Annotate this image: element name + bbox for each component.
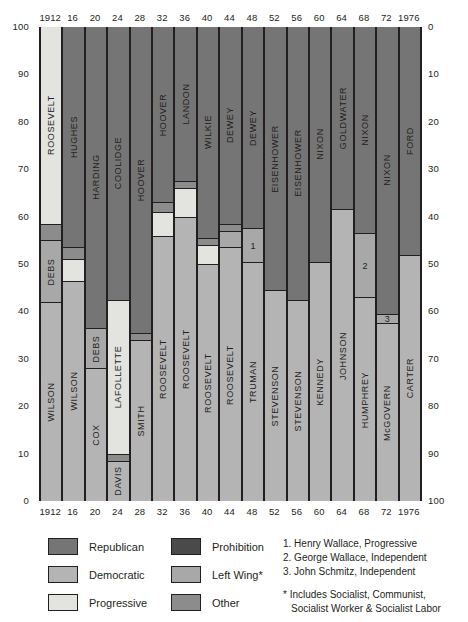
vote-segment: SMITH <box>131 340 151 501</box>
candidate-label: DEBS <box>91 335 101 362</box>
right-axis-tick: 80 <box>428 400 454 411</box>
left-axis-tick: 30 <box>3 353 29 364</box>
left-axis-tick: 60 <box>3 211 29 222</box>
vote-segment: CARTER <box>400 255 420 501</box>
vote-segment <box>220 231 240 248</box>
vote-segment <box>220 224 240 231</box>
candidate-label: WILSON <box>69 372 79 411</box>
legend-label: Republican <box>89 541 144 553</box>
vote-segment <box>108 454 128 461</box>
legend-swatch <box>48 538 78 555</box>
right-axis-tick: 0 <box>428 21 454 32</box>
candidate-label: STEVENSON <box>270 366 280 427</box>
candidate-label: DAVIS <box>113 467 123 496</box>
vote-segment: HOOVER <box>131 27 151 333</box>
right-axis-tick: 20 <box>428 116 454 127</box>
candidate-label: ROOSEVELT <box>203 353 213 413</box>
vote-segment: ROOSEVELT <box>175 217 195 501</box>
candidate-label: HOOVER <box>136 159 146 202</box>
candidate-label: HARDING <box>91 155 101 201</box>
vote-segment <box>41 224 61 241</box>
vote-segment: WILKIE <box>198 27 218 238</box>
legend-label: Other <box>212 597 240 609</box>
chart-legend: RepublicanDemocraticProgressiveProhibiti… <box>0 530 468 622</box>
election-column: NIXON2HUMPHREY <box>354 27 376 501</box>
vote-segment: ROOSEVELT <box>220 247 240 501</box>
vote-segment: KENNEDY <box>310 262 330 501</box>
vote-segment: 3 <box>377 314 397 323</box>
candidate-label: COX <box>91 424 101 445</box>
right-axis-tick: 100 <box>428 495 454 506</box>
right-axis-tick: 60 <box>428 305 454 316</box>
election-column: HARDINGDEBSCOX <box>85 27 107 501</box>
vote-segment: NIXON <box>377 27 397 314</box>
candidate-label: DEBS <box>46 258 56 285</box>
plot-area: ROOSEVELTDEBSWILSONHUGHESWILSONHARDINGDE… <box>39 27 422 501</box>
vote-segment: DEBS <box>41 240 61 302</box>
legend-swatch <box>48 566 78 583</box>
vote-segment: HOOVER <box>153 27 173 202</box>
election-column: EISENHOWERSTEVENSON <box>287 27 309 501</box>
right-axis-tick: 40 <box>428 211 454 222</box>
segment-number-label: 3 <box>385 314 390 323</box>
vote-segment: STEVENSON <box>288 300 308 501</box>
election-column: ROOSEVELTDEBSWILSON <box>40 27 62 501</box>
candidate-label: JOHNSON <box>338 332 348 380</box>
vote-segment <box>175 181 195 188</box>
left-axis-tick: 70 <box>3 163 29 174</box>
candidate-label: HUMPHREY <box>360 371 370 427</box>
election-column: HUGHESWILSON <box>62 27 84 501</box>
vote-segment: HUGHES <box>63 27 83 247</box>
election-column: NIXONKENNEDY <box>309 27 331 501</box>
vote-segment: EISENHOWER <box>265 27 285 290</box>
bottom-year-label: 1976 <box>389 506 429 517</box>
vote-segment: COOLIDGE <box>108 27 128 300</box>
candidate-label: WILSON <box>46 382 56 421</box>
candidate-label: LAFOLLETTE <box>113 346 123 409</box>
vote-segment <box>63 259 83 280</box>
legend-annotation: 1. Henry Wallace, Progressive <box>283 537 417 551</box>
election-column: WILKIEROOSEVELT <box>197 27 219 501</box>
vote-segment: WILSON <box>41 302 61 501</box>
election-column: DEWEY1TRUMAN <box>242 27 264 501</box>
candidate-label: KENNEDY <box>315 358 325 406</box>
election-column: HOOVERSMITH <box>130 27 152 501</box>
legend-item: Other <box>171 594 240 611</box>
segment-number-label: 1 <box>250 241 255 251</box>
segment-number-label: 2 <box>362 261 367 271</box>
vote-segment: FORD <box>400 27 420 255</box>
vote-segment: GOLDWATER <box>332 27 352 209</box>
candidate-label: EISENHOWER <box>270 125 280 193</box>
vote-segment: ROOSEVELT <box>153 236 173 501</box>
candidate-label: ROOSEVELT <box>225 345 235 405</box>
vote-segment: COX <box>86 368 106 501</box>
legend-annotation: 2. George Wallace, Independent <box>283 551 427 565</box>
candidate-label: GOLDWATER <box>338 87 348 149</box>
vote-segment: ROOSEVELT <box>41 27 61 224</box>
candidate-label: ROOSEVELT <box>181 329 191 389</box>
candidate-label: TRUMAN <box>248 361 258 403</box>
election-vote-share-chart: 1009080706050403020100 01020304050607080… <box>0 0 468 530</box>
candidate-label: McGOVERN <box>382 385 392 441</box>
candidate-label: CARTER <box>405 358 415 398</box>
legend-label: Prohibition <box>212 541 264 553</box>
vote-segment <box>198 245 218 264</box>
vote-segment: LANDON <box>175 27 195 181</box>
candidate-label: NIXON <box>315 129 325 161</box>
right-axis-tick: 50 <box>428 258 454 269</box>
legend-item: Democratic <box>48 566 145 583</box>
left-axis-tick: 10 <box>3 448 29 459</box>
election-column: GOLDWATERJOHNSON <box>331 27 353 501</box>
vote-segment: LAFOLLETTE <box>108 300 128 454</box>
vote-segment: McGOVERN <box>377 323 397 501</box>
vote-segment: HARDING <box>86 27 106 328</box>
left-axis-tick: 90 <box>3 68 29 79</box>
candidate-label: COOLIDGE <box>113 137 123 189</box>
left-axis-tick: 80 <box>3 116 29 127</box>
candidate-label: DEWEY <box>225 107 235 143</box>
left-axis-tick: 100 <box>3 21 29 32</box>
right-axis-tick: 10 <box>428 68 454 79</box>
election-column: COOLIDGELAFOLLETTEDAVIS <box>107 27 129 501</box>
legend-item: Prohibition <box>171 538 264 555</box>
vote-segment <box>198 238 218 245</box>
